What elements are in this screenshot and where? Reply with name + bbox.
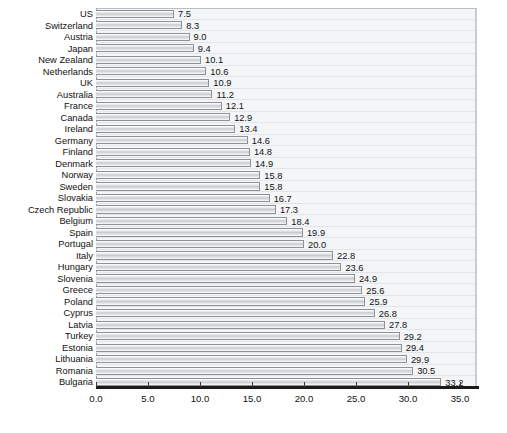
bar-fill (96, 44, 194, 52)
category-label: Poland (0, 296, 93, 308)
bar: 13.4 (96, 125, 235, 133)
bar: 7.5 (96, 10, 174, 18)
bar: 29.2 (96, 332, 400, 340)
value-label: 23.6 (341, 262, 363, 274)
value-label: 29.4 (402, 342, 424, 354)
chart-row: Slovakia16.7 (0, 192, 507, 204)
bar: 10.9 (96, 79, 209, 87)
chart-row: Cyprus26.8 (0, 307, 507, 319)
bar-fill (96, 297, 365, 305)
chart-row: Sweden15.8 (0, 181, 507, 193)
value-label: 22.8 (333, 250, 355, 262)
bar: 17.3 (96, 205, 276, 213)
category-label: UK (0, 77, 93, 89)
category-label: Sweden (0, 181, 93, 193)
chart-row: Slovenia24.9 (0, 273, 507, 285)
chart-row: Austria9.0 (0, 31, 507, 43)
x-axis-tick (356, 382, 357, 387)
value-label: 30.5 (413, 365, 435, 377)
chart-row: Finland14.8 (0, 146, 507, 158)
chart-row: Denmark14.9 (0, 158, 507, 170)
x-axis-line (96, 386, 479, 389)
bar: 22.8 (96, 251, 333, 259)
bar-fill (96, 332, 400, 340)
x-axis-tick-label: 10.0 (175, 393, 225, 404)
x-axis-tick (252, 382, 253, 387)
chart-row: Turkey29.2 (0, 330, 507, 342)
bar: 14.9 (96, 159, 251, 167)
chart-row: Spain19.9 (0, 227, 507, 239)
category-label: Denmark (0, 158, 93, 170)
chart-row: Japan9.4 (0, 43, 507, 55)
bar-fill (96, 274, 355, 282)
category-label: Switzerland (0, 20, 93, 32)
value-label: 12.9 (230, 112, 252, 124)
bar: 16.7 (96, 194, 270, 202)
bar: 14.8 (96, 148, 250, 156)
chart-row: US7.5 (0, 8, 507, 20)
category-label: Turkey (0, 330, 93, 342)
chart-row: Lithuania29.9 (0, 353, 507, 365)
value-label: 11.2 (212, 89, 233, 101)
value-label: 17.3 (276, 204, 298, 216)
value-label: 14.8 (250, 146, 272, 158)
x-axis-tick (96, 382, 97, 387)
category-label: Romania (0, 365, 93, 377)
category-label: Hungary (0, 261, 93, 273)
category-label: Greece (0, 284, 93, 296)
bar: 15.8 (96, 182, 260, 190)
x-axis-tick-label: 30.0 (383, 393, 433, 404)
x-axis-tick (408, 382, 409, 387)
bar: 14.6 (96, 136, 248, 144)
category-label: Estonia (0, 342, 93, 354)
bar-fill (96, 205, 276, 213)
bar-fill (96, 159, 251, 167)
value-label: 24.9 (355, 273, 377, 285)
category-label: Japan (0, 43, 93, 55)
value-label: 10.1 (201, 54, 223, 66)
value-label: 25.6 (362, 285, 384, 297)
bar-fill (96, 10, 174, 18)
value-label: 29.2 (400, 331, 422, 343)
x-axis-tick (148, 382, 149, 387)
bar-fill (96, 67, 206, 75)
chart-row: Australia11.2 (0, 89, 507, 101)
category-label: New Zealand (0, 54, 93, 66)
bar-fill (96, 171, 260, 179)
category-label: Ireland (0, 123, 93, 135)
bar: 29.9 (96, 355, 407, 363)
bar: 30.5 (96, 367, 413, 375)
bar-fill (96, 321, 385, 329)
chart-row: Greece25.6 (0, 284, 507, 296)
value-label: 7.5 (174, 8, 191, 20)
bar-fill (96, 90, 212, 98)
x-axis-tick-label: 25.0 (331, 393, 381, 404)
x-axis-tick-label: 35.0 (435, 393, 485, 404)
x-axis-tick-label: 15.0 (227, 393, 277, 404)
chart-row: Ireland13.4 (0, 123, 507, 135)
bar: 8.3 (96, 21, 182, 29)
bar: 10.1 (96, 56, 201, 64)
value-label: 14.9 (251, 158, 273, 170)
bar-chart: US7.5Switzerland8.3Austria9.0Japan9.4New… (0, 0, 507, 433)
bar: 9.4 (96, 44, 194, 52)
chart-row: UK10.9 (0, 77, 507, 89)
category-label: Czech Republic (0, 204, 93, 216)
bar-fill (96, 240, 304, 248)
bar-fill (96, 125, 235, 133)
bar-fill (96, 148, 250, 156)
category-label: Slovenia (0, 273, 93, 285)
value-label: 10.9 (209, 77, 231, 89)
category-label: Australia (0, 89, 93, 101)
category-label: Finland (0, 146, 93, 158)
bar-fill (96, 33, 190, 41)
category-label: Italy (0, 250, 93, 262)
value-label: 10.6 (206, 66, 228, 78)
category-label: Latvia (0, 319, 93, 331)
bar: 20.0 (96, 240, 304, 248)
value-label: 12.1 (222, 100, 244, 112)
chart-row: France12.1 (0, 100, 507, 112)
bar-fill (96, 56, 201, 64)
bar-fill (96, 263, 341, 271)
bar: 15.8 (96, 171, 260, 179)
